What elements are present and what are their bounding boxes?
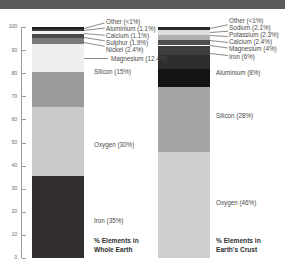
bar-segment-silicon[interactable] — [32, 72, 84, 107]
callout-leader-line — [210, 45, 228, 48]
y-axis-tick — [22, 27, 26, 28]
y-axis-tick-label: 90 — [5, 48, 17, 53]
y-axis-tick-label: 60 — [5, 117, 17, 122]
y-axis-tick-label: 10 — [5, 232, 17, 237]
y-axis-tick — [22, 258, 26, 259]
segment-label-oxygen: Oxygen (30%) — [94, 141, 134, 148]
y-axis-tick-label: 50 — [5, 140, 17, 145]
bar-segment-silicon[interactable] — [158, 87, 210, 152]
y-axis-tick-label: 0 — [5, 255, 17, 260]
y-axis-tick — [22, 73, 26, 74]
y-axis-tick — [22, 166, 26, 167]
caption-earths-crust-line2: Earth's Crust — [216, 246, 257, 254]
callout-label-nickel: Nickel (2.4%) — [106, 46, 143, 53]
y-axis-tick-label: 30 — [5, 186, 17, 191]
stacked-bar-whole-earth[interactable] — [32, 27, 84, 258]
caption-whole-earth-line2: Whole Earth — [94, 246, 132, 254]
callout-label-magnesium: Magnesium (12.4%) — [111, 55, 167, 62]
bar-segment-magnesium[interactable] — [32, 44, 84, 73]
callout-leader-line — [84, 58, 108, 59]
callout-label-magnesium: Magnesium (4%) — [229, 45, 277, 52]
y-axis-tick-label: 80 — [5, 71, 17, 76]
y-axis-tick-label: 70 — [5, 94, 17, 99]
callout-leader-line — [210, 40, 228, 43]
callout-leader-line — [84, 42, 105, 47]
y-axis-tick — [22, 189, 26, 190]
callout-leader-line — [210, 53, 228, 56]
callout-leader-line — [84, 37, 105, 41]
bar-segment-oxygen[interactable] — [158, 152, 210, 258]
y-axis-tick — [22, 143, 26, 144]
y-axis-tick — [22, 50, 26, 51]
caption-earths-crust-line1: % Elements in — [216, 237, 261, 245]
y-axis-tick — [22, 212, 26, 213]
caption-whole-earth-line1: % Elements in — [94, 237, 139, 245]
y-axis-tick-label: 100 — [5, 24, 17, 29]
callout-leader-line — [84, 33, 105, 36]
bar-segment-magnesium[interactable] — [158, 46, 210, 55]
bar-segment-aluminium[interactable] — [158, 69, 210, 88]
y-axis-tick-label: 40 — [5, 163, 17, 168]
segment-label-silicon: Silicon (15%) — [94, 68, 131, 75]
callout-leader-line — [210, 30, 228, 32]
y-axis-tick-label: 20 — [5, 209, 17, 214]
callout-leader-line — [210, 35, 228, 37]
callout-label-aluminium: Aluminium (8%) — [216, 69, 260, 76]
segment-label-silicon: Silicon (28%) — [216, 112, 253, 119]
callout-leader-line — [210, 24, 228, 29]
segment-label-oxygen: Oxygen (46%) — [216, 199, 256, 206]
y-axis-tick — [22, 235, 26, 236]
y-axis-tick — [22, 119, 26, 120]
y-axis-tick — [22, 96, 26, 97]
bar-segment-oxygen[interactable] — [32, 107, 84, 176]
segment-label-iron: Iron (35%) — [94, 217, 123, 224]
bar-segment-iron[interactable] — [32, 176, 84, 258]
chart-canvas: 100 90 80 70 60 50 40 30 20 10 0 — [0, 0, 285, 268]
callout-label-iron: Iron (6%) — [229, 53, 255, 60]
